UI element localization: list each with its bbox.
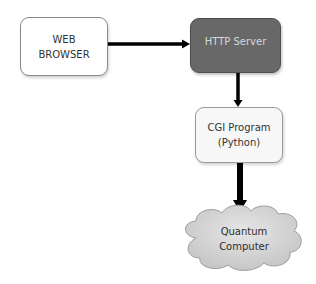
architecture-diagram: WEB BROWSER HTTP Server CGI Program (Pyt…: [0, 0, 316, 284]
arrow-browser-to-server: [108, 40, 190, 49]
cgi-program-label-line1: CGI Program: [207, 120, 270, 135]
web-browser-label-line1: WEB: [52, 32, 75, 47]
cgi-program-node: CGI Program (Python): [195, 107, 283, 163]
http-server-label: HTTP Server: [205, 34, 267, 49]
quantum-computer-node: Quantum Computer: [200, 224, 288, 254]
quantum-computer-label-line2: Computer: [200, 239, 288, 254]
web-browser-node: WEB BROWSER: [20, 17, 108, 76]
quantum-computer-label-line1: Quantum: [200, 224, 288, 239]
arrow-server-to-cgi: [234, 73, 243, 107]
arrow-cgi-to-quantum: [233, 163, 247, 212]
http-server-node: HTTP Server: [190, 18, 281, 73]
web-browser-label-line2: BROWSER: [38, 47, 89, 62]
cgi-program-label-line2: (Python): [218, 135, 260, 150]
